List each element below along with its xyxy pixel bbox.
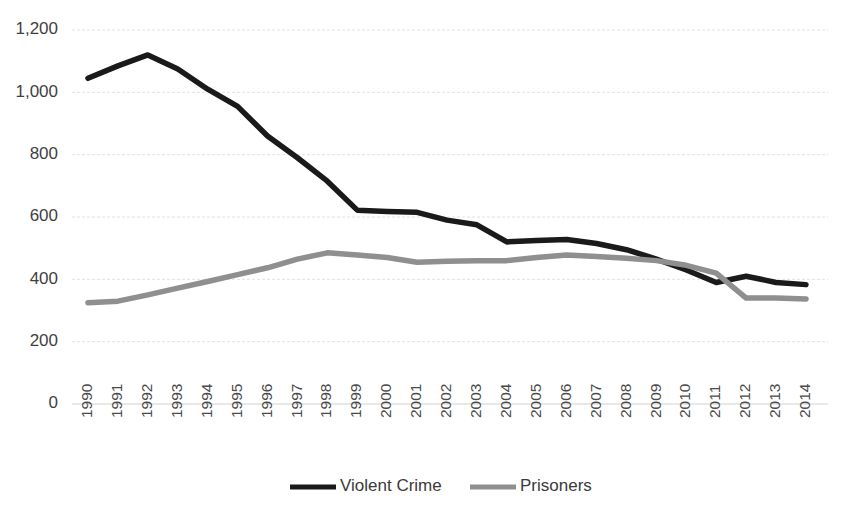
- x-axis-tick-label: 2000: [377, 383, 394, 418]
- chart-canvas: 02004006008001,0001,200 1990199119921993…: [0, 0, 841, 511]
- x-axis-tick-label: 2005: [527, 384, 544, 418]
- gridlines: [72, 30, 828, 404]
- y-axis-tick-label: 1,200: [15, 19, 58, 38]
- x-axis-tick-label: 1990: [78, 383, 95, 418]
- x-axis-tick-label: 2014: [796, 383, 813, 418]
- y-axis-tick-label: 1,000: [15, 82, 58, 101]
- x-axis-tick-label: 1996: [258, 384, 275, 418]
- x-axis-tick-label: 2012: [736, 384, 753, 418]
- x-axis-tick-label: 2009: [647, 384, 664, 418]
- x-axis-tick-label: 1994: [198, 383, 215, 418]
- x-axis-tick-label: 2008: [617, 384, 634, 418]
- x-axis-tick-label: 1999: [347, 384, 364, 418]
- legend-label: Violent Crime: [340, 476, 442, 495]
- x-axis-tick-label: 1998: [317, 384, 334, 418]
- line-chart-figure: 02004006008001,0001,200 1990199119921993…: [0, 0, 841, 511]
- y-axis-tick-label: 400: [30, 269, 58, 288]
- x-axis-tick-label: 2003: [467, 384, 484, 418]
- x-axis-tick-label: 2013: [766, 384, 783, 418]
- x-axis-tick-labels: 1990199119921993199419951996199719981999…: [78, 383, 813, 418]
- x-axis-tick-label: 2010: [676, 383, 693, 418]
- y-axis-tick-label: 200: [30, 331, 58, 350]
- series-line-violent-crime: [88, 55, 806, 285]
- y-axis-tick-label: 800: [30, 144, 58, 163]
- x-axis-tick-label: 1991: [108, 384, 125, 418]
- x-axis-tick-label: 2006: [557, 384, 574, 418]
- y-axis-tick-label: 0: [49, 393, 58, 412]
- y-axis-tick-label: 600: [30, 206, 58, 225]
- x-axis-tick-label: 1995: [228, 384, 245, 418]
- y-axis-tick-labels: 02004006008001,0001,200: [15, 19, 58, 412]
- x-axis-tick-label: 1992: [138, 384, 155, 418]
- x-axis-tick-label: 1993: [168, 384, 185, 418]
- legend-label: Prisoners: [520, 476, 592, 495]
- x-axis-tick-label: 2004: [497, 383, 514, 418]
- x-axis-tick-label: 2001: [407, 384, 424, 418]
- chart-legend: Violent CrimePrisoners: [290, 476, 592, 495]
- x-axis-tick-label: 2002: [437, 384, 454, 418]
- x-axis-tick-label: 1997: [288, 384, 305, 418]
- x-axis-tick-label: 2007: [587, 384, 604, 418]
- x-axis-tick-label: 2011: [706, 385, 723, 418]
